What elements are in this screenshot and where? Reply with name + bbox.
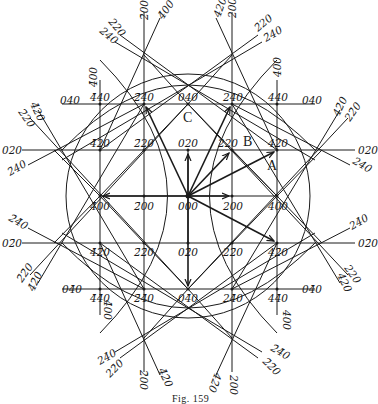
marker-B: B bbox=[243, 134, 252, 149]
svg-text:02̄0: 02̄0 bbox=[178, 246, 198, 258]
svg-text:2̄00: 2̄00 bbox=[138, 0, 150, 21]
marker-C: C bbox=[183, 110, 192, 125]
svg-text:2̄4̄0: 2̄4̄0 bbox=[133, 292, 154, 304]
diffraction-diagram: 4̄40 2̄40 040 240 440 4̄20 2̄20 020 220 … bbox=[0, 0, 378, 404]
marker-A: A bbox=[267, 158, 278, 173]
svg-text:220: 220 bbox=[217, 137, 238, 149]
svg-text:2̄40: 2̄40 bbox=[133, 91, 154, 103]
svg-text:04̄0: 04̄0 bbox=[178, 292, 198, 304]
svg-text:44̄0: 44̄0 bbox=[267, 292, 288, 304]
svg-text:24̄0: 24̄0 bbox=[222, 292, 243, 304]
svg-text:2̄00: 2̄00 bbox=[138, 369, 150, 390]
svg-text:200: 200 bbox=[226, 0, 238, 19]
svg-text:4̄40: 4̄40 bbox=[89, 91, 110, 103]
svg-text:04̄0: 04̄0 bbox=[302, 283, 322, 295]
svg-text:2̄20: 2̄20 bbox=[133, 137, 154, 149]
arrow-B bbox=[188, 153, 229, 196]
svg-text:04̄0: 04̄0 bbox=[62, 283, 82, 295]
figure-caption: Fig. 159 bbox=[172, 393, 209, 404]
line-labels-top: 2̄00 4̄00 220 240 420 200 2̄20 2̄40 4̄00… bbox=[87, 0, 285, 88]
arrow-A bbox=[188, 152, 274, 196]
svg-text:02̄0: 02̄0 bbox=[358, 237, 378, 249]
svg-text:040: 040 bbox=[178, 91, 198, 103]
svg-text:240: 240 bbox=[350, 154, 374, 175]
svg-text:400: 400 bbox=[271, 57, 283, 78]
svg-text:42̄0: 42̄0 bbox=[206, 370, 225, 394]
svg-text:200: 200 bbox=[228, 374, 240, 395]
arrow-240 bbox=[188, 107, 230, 196]
svg-text:440: 440 bbox=[267, 91, 288, 103]
svg-text:4̄00: 4̄00 bbox=[87, 67, 99, 88]
svg-text:4̄00: 4̄00 bbox=[102, 299, 114, 320]
svg-text:020: 020 bbox=[358, 144, 378, 156]
svg-text:22̄0: 22̄0 bbox=[222, 246, 243, 258]
svg-text:2̄4̄0: 2̄4̄0 bbox=[6, 211, 30, 232]
svg-text:4̄00: 4̄00 bbox=[154, 0, 176, 22]
svg-text:040: 040 bbox=[302, 94, 322, 106]
svg-text:02̄0: 02̄0 bbox=[2, 237, 22, 249]
svg-text:2̄40: 2̄40 bbox=[4, 157, 28, 178]
svg-text:2̄2̄0: 2̄2̄0 bbox=[133, 246, 154, 258]
svg-text:400: 400 bbox=[281, 309, 293, 330]
svg-text:040: 040 bbox=[60, 94, 80, 106]
svg-text:4̄20: 4̄20 bbox=[89, 137, 110, 149]
svg-text:42̄0: 42̄0 bbox=[267, 246, 288, 258]
svg-text:4̄00: 4̄00 bbox=[89, 200, 110, 212]
svg-text:400: 400 bbox=[267, 200, 288, 212]
svg-text:240: 240 bbox=[222, 91, 243, 103]
svg-text:020: 020 bbox=[178, 137, 198, 149]
svg-text:000: 000 bbox=[178, 200, 198, 212]
svg-text:24̄0: 24̄0 bbox=[346, 211, 370, 232]
svg-text:2̄00: 2̄00 bbox=[133, 200, 154, 212]
svg-text:4̄2̄0: 4̄2̄0 bbox=[89, 246, 110, 258]
svg-text:4̄2̄0: 4̄2̄0 bbox=[156, 365, 176, 389]
svg-text:420: 420 bbox=[267, 137, 288, 149]
svg-text:200: 200 bbox=[222, 200, 243, 212]
svg-text:020: 020 bbox=[2, 144, 22, 156]
